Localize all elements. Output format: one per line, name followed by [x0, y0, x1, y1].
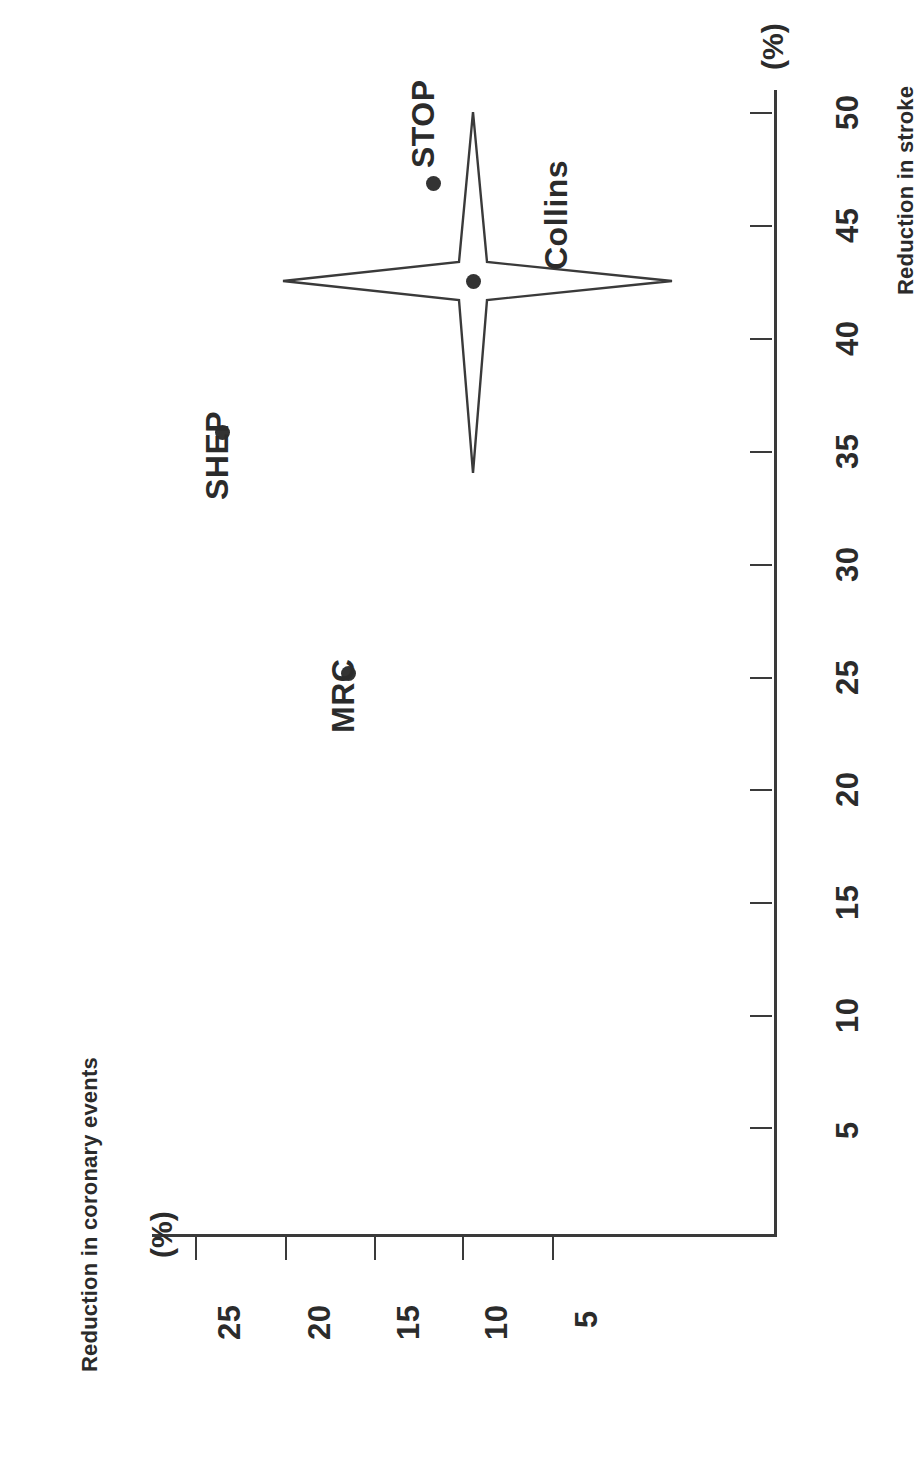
- data-point-label: MRC: [325, 659, 362, 733]
- data-point[interactable]: [426, 176, 441, 191]
- coronary-axis-line: [152, 1234, 777, 1237]
- x-tick-mark: [750, 1015, 772, 1017]
- x-tick-label: 10: [830, 998, 866, 1033]
- x-tick-mark: [750, 902, 772, 904]
- coronary-axis-unit: (%): [145, 1211, 179, 1258]
- x-tick-label: 5: [830, 1121, 866, 1139]
- y-tick-label: 10: [479, 1305, 515, 1340]
- scatter-plot-figure: 50 45 40 35 30 25 20 15 10 5 (%) Reducti…: [0, 0, 915, 1463]
- coronary-axis-title: Reduction in coronary events: [77, 1057, 103, 1372]
- data-point-label: Collins: [538, 160, 575, 270]
- y-tick-mark: [462, 1236, 464, 1260]
- x-tick-label: 20: [830, 772, 866, 807]
- y-tick-mark: [374, 1236, 376, 1260]
- x-tick-mark: [750, 225, 772, 227]
- x-tick-label: 30: [830, 547, 866, 582]
- y-tick-mark: [552, 1236, 554, 1260]
- y-tick-label: 15: [391, 1305, 427, 1340]
- y-tick-mark: [195, 1236, 197, 1260]
- stroke-axis-line: [774, 90, 777, 1237]
- x-tick-label: 25: [830, 660, 866, 695]
- x-tick-label: 40: [830, 321, 866, 356]
- stroke-axis-title: Reduction in stroke: [893, 86, 915, 295]
- x-tick-label: 50: [830, 95, 866, 130]
- x-tick-mark: [750, 338, 772, 340]
- x-tick-mark: [750, 677, 772, 679]
- data-point-label: SHEP: [199, 411, 236, 500]
- data-point[interactable]: [466, 274, 481, 289]
- y-tick-mark: [285, 1236, 287, 1260]
- x-tick-mark: [750, 451, 772, 453]
- x-tick-label: 35: [830, 434, 866, 469]
- x-tick-mark: [750, 1127, 772, 1129]
- x-tick-mark: [750, 564, 772, 566]
- y-tick-label: 5: [569, 1310, 605, 1328]
- data-point-label: STOP: [405, 79, 442, 168]
- y-tick-label: 20: [302, 1305, 338, 1340]
- stroke-axis-unit: (%): [756, 23, 790, 70]
- x-tick-label: 15: [830, 885, 866, 920]
- x-tick-mark: [750, 112, 772, 114]
- x-tick-label: 45: [830, 208, 866, 243]
- y-tick-label: 25: [212, 1305, 248, 1340]
- confidence-interval-star-icon: [0, 0, 915, 1463]
- x-tick-mark: [750, 789, 772, 791]
